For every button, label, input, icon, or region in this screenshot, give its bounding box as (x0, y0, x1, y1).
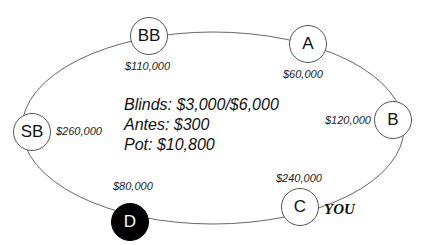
seat-label: BB (138, 26, 161, 46)
seat-label: B (387, 110, 398, 130)
seat-c[interactable]: C (281, 188, 319, 226)
seat-label: D (124, 212, 136, 232)
seat-d-dealer[interactable]: D (111, 203, 149, 241)
stack-d: $80,000 (113, 180, 153, 192)
seat-b[interactable]: B (374, 101, 412, 139)
seat-bb[interactable]: BB (130, 17, 168, 55)
table-info: Blinds: $3,000/$6,000 Antes: $300 Pot: $… (124, 95, 279, 155)
stack-sb: $260,000 (56, 125, 102, 137)
stack-c: $240,000 (276, 172, 322, 184)
seat-a[interactable]: A (289, 25, 327, 63)
antes-text: Antes: $300 (124, 115, 279, 135)
stack-bb: $110,000 (125, 60, 170, 72)
hero-label: YOU (324, 201, 355, 218)
blinds-text: Blinds: $3,000/$6,000 (124, 95, 279, 115)
stack-b: $120,000 (325, 114, 371, 126)
seat-label: A (302, 34, 313, 54)
pot-text: Pot: $10,800 (124, 135, 279, 155)
stack-a: $60,000 (283, 68, 323, 80)
seat-sb[interactable]: SB (13, 113, 51, 151)
seat-label: SB (21, 122, 44, 142)
seat-label: C (294, 197, 306, 217)
